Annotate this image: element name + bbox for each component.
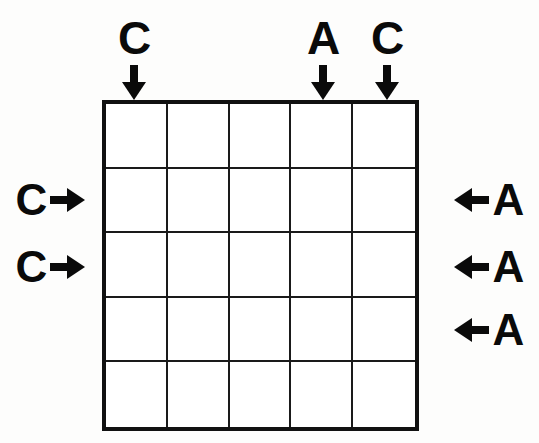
grid-cell[interactable]: [291, 233, 353, 298]
clue-top-3[interactable]: C: [359, 14, 415, 100]
grid-cell[interactable]: [106, 233, 168, 298]
grid-cell[interactable]: [291, 104, 353, 169]
clue-right-1-label: A: [493, 178, 524, 222]
arrow-right-icon: [50, 254, 84, 280]
clue-left-1[interactable]: C: [4, 175, 96, 225]
clue-top-1-label: C: [118, 15, 150, 61]
grid-cell[interactable]: [353, 104, 415, 169]
grid-cell[interactable]: [230, 298, 292, 363]
grid-cell[interactable]: [106, 169, 168, 234]
grid-cell[interactable]: [230, 233, 292, 298]
clue-right-3[interactable]: A: [443, 305, 535, 355]
arrow-down-icon: [121, 65, 147, 99]
clue-left-1-label: C: [16, 178, 47, 222]
grid-cell[interactable]: [168, 233, 230, 298]
grid-cell[interactable]: [168, 298, 230, 363]
clue-top-2[interactable]: A: [295, 14, 351, 100]
arrow-left-icon: [455, 254, 489, 280]
grid-cell[interactable]: [230, 362, 292, 427]
grid-cell[interactable]: [353, 298, 415, 363]
arrow-left-icon: [455, 317, 489, 343]
puzzle-grid: [102, 100, 419, 431]
grid-cell[interactable]: [106, 362, 168, 427]
grid-cell[interactable]: [106, 104, 168, 169]
grid-cell[interactable]: [168, 169, 230, 234]
clue-right-2-label: A: [493, 245, 524, 289]
arrow-down-icon: [374, 65, 400, 99]
grid-cell[interactable]: [168, 362, 230, 427]
arrow-down-icon: [310, 65, 336, 99]
grid-cell[interactable]: [230, 104, 292, 169]
grid-cell[interactable]: [291, 362, 353, 427]
puzzle-grid-cells: [106, 104, 415, 427]
grid-cell[interactable]: [353, 233, 415, 298]
clue-right-1[interactable]: A: [443, 175, 535, 225]
clue-right-2[interactable]: A: [443, 242, 535, 292]
clue-left-2[interactable]: C: [4, 242, 96, 292]
clue-top-1[interactable]: C: [106, 14, 162, 100]
grid-cell[interactable]: [230, 169, 292, 234]
clue-right-3-label: A: [493, 308, 524, 352]
clue-top-2-label: A: [307, 15, 339, 61]
puzzle-diagram: C A C C C A: [0, 0, 539, 443]
grid-cell[interactable]: [168, 104, 230, 169]
grid-cell[interactable]: [291, 169, 353, 234]
grid-cell[interactable]: [291, 298, 353, 363]
arrow-left-icon: [455, 187, 489, 213]
clue-top-3-label: C: [371, 15, 403, 61]
grid-cell[interactable]: [106, 298, 168, 363]
arrow-right-icon: [50, 187, 84, 213]
grid-cell[interactable]: [353, 362, 415, 427]
clue-left-2-label: C: [16, 245, 47, 289]
grid-cell[interactable]: [353, 169, 415, 234]
